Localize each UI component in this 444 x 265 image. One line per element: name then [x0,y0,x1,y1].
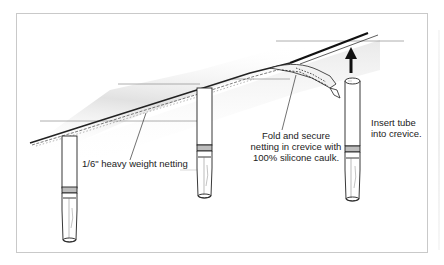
fold-label-line-1: Fold and secure [240,130,352,141]
tube-left [62,136,77,242]
page-edge [438,30,440,250]
insert-label-line-1: Insert tube [371,117,431,128]
fold-label-line-3: 100% silicone caulk. [240,152,352,163]
fold-instruction-label: Fold and secure netting in crevice with … [240,130,352,163]
netting-label: 1/6" heavy weight netting [82,158,188,169]
tube-middle [197,88,212,198]
fold-label-line-2: netting in crevice with [240,141,352,152]
insert-label-line-2: into crevice. [371,128,431,139]
insert-instruction-label: Insert tube into crevice. [371,117,431,139]
